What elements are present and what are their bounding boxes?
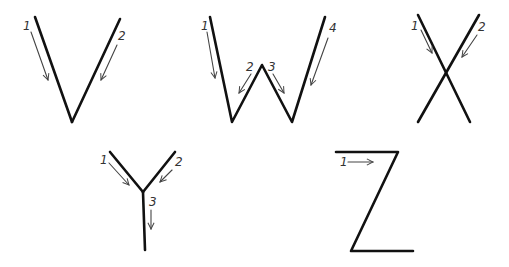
direction-arrow-icon	[311, 38, 328, 85]
stroke-number: 2	[118, 29, 126, 43]
letter-stroke	[35, 17, 72, 122]
direction-arrow-icon	[31, 32, 48, 80]
direction-arrow-icon	[109, 163, 129, 185]
stroke-number: 2	[478, 20, 486, 34]
stroke-number: 1	[23, 19, 31, 33]
letter-stroke	[110, 152, 143, 192]
stroke-number: 1	[340, 155, 348, 169]
letter-x: 12	[411, 15, 486, 122]
letter-v: 12	[23, 17, 126, 122]
letter-w: 1234	[201, 17, 337, 122]
letter-stroke	[72, 19, 120, 122]
stroke-number: 2	[246, 60, 254, 74]
letter-z: 1	[336, 152, 413, 251]
stroke-number: 1	[411, 19, 419, 33]
stroke-number: 4	[329, 21, 337, 35]
stroke-number: 1	[100, 153, 108, 167]
stroke-number: 3	[149, 195, 157, 209]
direction-arrow-icon	[160, 170, 172, 182]
stroke-number: 3	[268, 60, 276, 74]
stroke-order-diagram: 121234121231	[0, 0, 509, 267]
direction-arrow-icon	[101, 45, 117, 80]
stroke-number: 2	[175, 155, 183, 169]
stroke-number: 1	[201, 19, 209, 33]
letter-stroke	[143, 192, 145, 250]
letter-y: 123	[100, 152, 183, 250]
